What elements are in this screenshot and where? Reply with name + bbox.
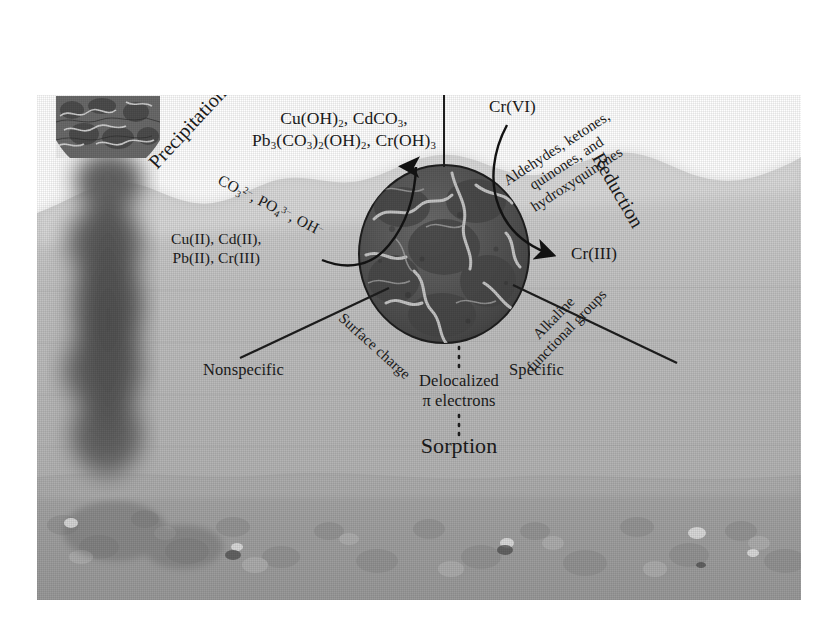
label-nonspecific: Nonspecific [203, 360, 284, 380]
label-cr-iii: Cr(III) [571, 244, 617, 265]
delocalized-line2: π electrons [377, 391, 541, 411]
label-delocalized-pi-electrons: Delocalized π electrons [377, 371, 541, 411]
precipitation-arrow [322, 167, 416, 265]
precipitation-products-line1: Cu(OH)2, CdCO3, [252, 108, 436, 130]
figure-frame: Precipitation Reduction Cu(OH)2, CdCO3, … [37, 95, 801, 600]
precipitation-products-line2: Pb3(CO3)2(OH)2, Cr(OH)3 [252, 130, 436, 152]
delocalized-line1: Delocalized [377, 371, 541, 391]
label-precipitation-products: Cu(OH)2, CdCO3, Pb3(CO3)2(OH)2, Cr(OH)3 [252, 108, 436, 153]
figure-root: Precipitation Reduction Cu(OH)2, CdCO3, … [0, 0, 829, 631]
label-sorption: Sorption [377, 433, 541, 460]
label-metal-ions: Cu(II), Cd(II), Pb(II), Cr(III) [171, 230, 262, 268]
metal-ions-line1: Cu(II), Cd(II), [171, 230, 262, 249]
label-cr-vi: Cr(VI) [489, 97, 536, 118]
annotation-vectors [37, 95, 801, 600]
metal-ions-line2: Pb(II), Cr(III) [171, 249, 262, 268]
